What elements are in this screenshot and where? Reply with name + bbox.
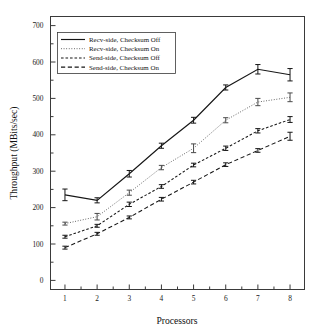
y-axis-title: Throughput (MBits/sec): [8, 107, 20, 200]
series-line-0: [65, 69, 290, 200]
series-line-2: [65, 120, 290, 237]
x-tick-label: 7: [256, 294, 260, 303]
x-tick-label: 4: [160, 294, 164, 303]
y-tick-label: 100: [32, 240, 43, 249]
x-tick-label: 1: [63, 294, 67, 303]
y-tick-label: 600: [32, 58, 43, 67]
error-bar-layer: [62, 65, 292, 250]
legend-label-2: Send-side, Checksum Off: [89, 54, 161, 61]
x-axis-title: Processors: [156, 315, 197, 326]
series-layer: [65, 69, 290, 247]
x-tick-label: 2: [95, 294, 99, 303]
chart-legend: Recv-side, Checksum OffRecv-side, Checks…: [58, 33, 176, 74]
y-tick-label: 500: [32, 94, 43, 103]
y-axis-tick-labels: 0100200300400500600700: [32, 21, 43, 285]
chart-figure: 0100200300400500600700 12345678 Recv-sid…: [0, 0, 327, 330]
series-line-3: [65, 136, 290, 247]
y-tick-label: 200: [32, 203, 43, 212]
series-line-1: [65, 97, 290, 223]
y-tick-label: 300: [32, 167, 43, 176]
x-tick-label: 8: [288, 294, 292, 303]
line-chart: 0100200300400500600700 12345678 Recv-sid…: [0, 0, 327, 330]
x-tick-label: 6: [224, 294, 228, 303]
y-tick-label: 400: [32, 130, 43, 139]
x-tick-label: 5: [192, 294, 196, 303]
y-axis-ticks: [51, 26, 56, 281]
x-axis-tick-labels: 12345678: [63, 294, 292, 303]
y-tick-label: 700: [32, 21, 43, 30]
y-tick-label: 0: [40, 276, 44, 285]
legend-label-3: Send-side, Checksum On: [89, 64, 159, 71]
legend-label-0: Recv-side, Checksum Off: [89, 36, 161, 43]
x-axis-ticks: [65, 285, 290, 290]
x-tick-label: 3: [127, 294, 131, 303]
legend-label-1: Recv-side, Checksum On: [89, 45, 160, 52]
